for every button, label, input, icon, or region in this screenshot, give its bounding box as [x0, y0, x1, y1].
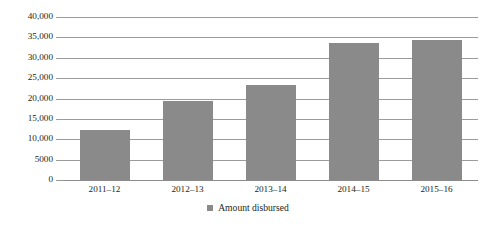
legend-swatch-amount-disbursed: [207, 205, 213, 211]
legend-label-amount-disbursed: Amount disbursed: [218, 203, 289, 213]
y-axis-tick-mark: [56, 37, 63, 38]
y-axis-tick-label: 35,000: [0, 33, 53, 42]
y-axis-tick-label: 20,000: [0, 94, 53, 103]
plot-area: [63, 17, 478, 180]
bar: [163, 101, 213, 180]
y-axis-tick-label: 0: [0, 175, 53, 184]
y-axis-tick-mark: [56, 139, 63, 140]
bar: [246, 85, 296, 180]
y-axis-tick-mark: [56, 17, 63, 18]
x-axis-tick-label: 2015–16: [395, 185, 478, 194]
y-axis-tick-mark: [56, 119, 63, 120]
y-axis-tick-mark: [56, 160, 63, 161]
y-axis-tick-label: 25,000: [0, 74, 53, 83]
x-axis-tick-label: 2013–14: [229, 185, 312, 194]
y-axis-tick-mark: [56, 180, 63, 181]
bar: [412, 40, 462, 180]
bar: [80, 130, 130, 180]
y-axis-tick-label: 15,000: [0, 114, 53, 123]
y-axis-tick-label: 10,000: [0, 135, 53, 144]
x-axis-tick-label: 2011–12: [63, 185, 146, 194]
y-axis-tick-label: 40,000: [0, 12, 53, 21]
y-axis-tick-mark: [56, 58, 63, 59]
bar-chart-figure: 0500010,00015,00020,00025,00030,00035,00…: [0, 0, 496, 229]
y-axis-tick-label: 5000: [0, 155, 53, 164]
x-axis-tick-label: 2012–13: [146, 185, 229, 194]
gridline: [63, 180, 478, 181]
y-axis-tick-mark: [56, 78, 63, 79]
x-axis-tick-label: 2014–15: [312, 185, 395, 194]
bars-layer: [63, 17, 478, 180]
y-axis-tick-label: 30,000: [0, 53, 53, 62]
y-axis-tick-mark: [56, 99, 63, 100]
bar: [329, 43, 379, 180]
chart-legend: Amount disbursed: [0, 203, 496, 213]
